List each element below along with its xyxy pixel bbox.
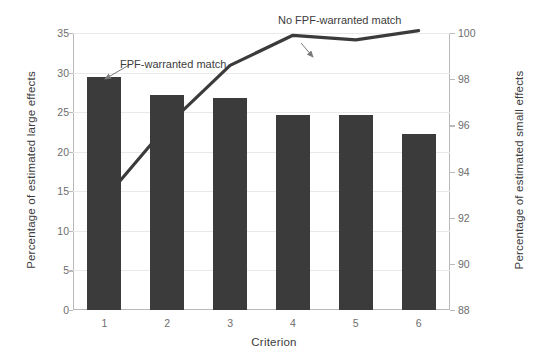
y-axis-left-tick-label: 15 — [29, 186, 69, 197]
y-axis-right-tickmark — [450, 125, 455, 126]
plot-area: 05101520253035 889092949698100 123456 — [73, 33, 450, 310]
x-axis-tick-label: 2 — [164, 317, 170, 329]
annotation-line-label: No FPF-warranted match — [278, 14, 401, 26]
y-axis-left-tick-label: 5 — [29, 265, 69, 276]
chart-container: Percentage of estimated large effects Pe… — [0, 0, 548, 361]
y-axis-right-tick-label: 100 — [458, 28, 498, 39]
x-axis-tick-label: 6 — [416, 317, 422, 329]
annotation-bar-label: FPF-warranted match — [120, 58, 226, 70]
y-axis-left-tick-label: 25 — [29, 107, 69, 118]
y-axis-right-tickmark — [450, 33, 455, 34]
y-axis-right-tick-label: 88 — [458, 305, 498, 316]
y-axis-right-tickmark — [450, 310, 455, 311]
y-axis-right-tickmark — [450, 218, 455, 219]
y-axis-right-title: Percentage of estimated small effects — [513, 55, 525, 285]
x-axis-tick-label: 4 — [290, 317, 296, 329]
x-axis-tick-label: 5 — [353, 317, 359, 329]
line-series — [73, 33, 450, 310]
y-axis-right-tick-label: 94 — [458, 167, 498, 178]
y-axis-right-tick-label: 96 — [458, 120, 498, 131]
y-axis-right-tick-label: 98 — [458, 74, 498, 85]
x-axis-tick-label: 1 — [101, 317, 107, 329]
y-axis-left-tick-label: 10 — [29, 226, 69, 237]
y-axis-left-tick-label: 20 — [29, 147, 69, 158]
y-axis-left-tick-label: 35 — [29, 28, 69, 39]
y-axis-left-title: Percentage of estimated large effects — [25, 55, 37, 285]
y-axis-left-tick-label: 30 — [29, 68, 69, 79]
y-axis-right-tick-label: 90 — [458, 259, 498, 270]
x-axis-tick-label: 3 — [227, 317, 233, 329]
y-axis-left-tickmark — [68, 310, 73, 311]
x-axis-title: Criterion — [0, 336, 548, 348]
y-axis-left-tick-label: 0 — [29, 305, 69, 316]
y-axis-right-tickmark — [450, 79, 455, 80]
y-axis-right-tick-label: 92 — [458, 213, 498, 224]
y-axis-right-tickmark — [450, 264, 455, 265]
y-axis-right-tickmark — [450, 172, 455, 173]
